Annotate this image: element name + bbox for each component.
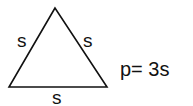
perimeter-formula: p= 3s bbox=[120, 58, 169, 80]
side-label-bottom: s bbox=[52, 87, 62, 106]
side-label-right: s bbox=[83, 30, 93, 51]
side-label-left: s bbox=[17, 30, 27, 51]
triangle-diagram: s s s p= 3s bbox=[0, 0, 193, 106]
